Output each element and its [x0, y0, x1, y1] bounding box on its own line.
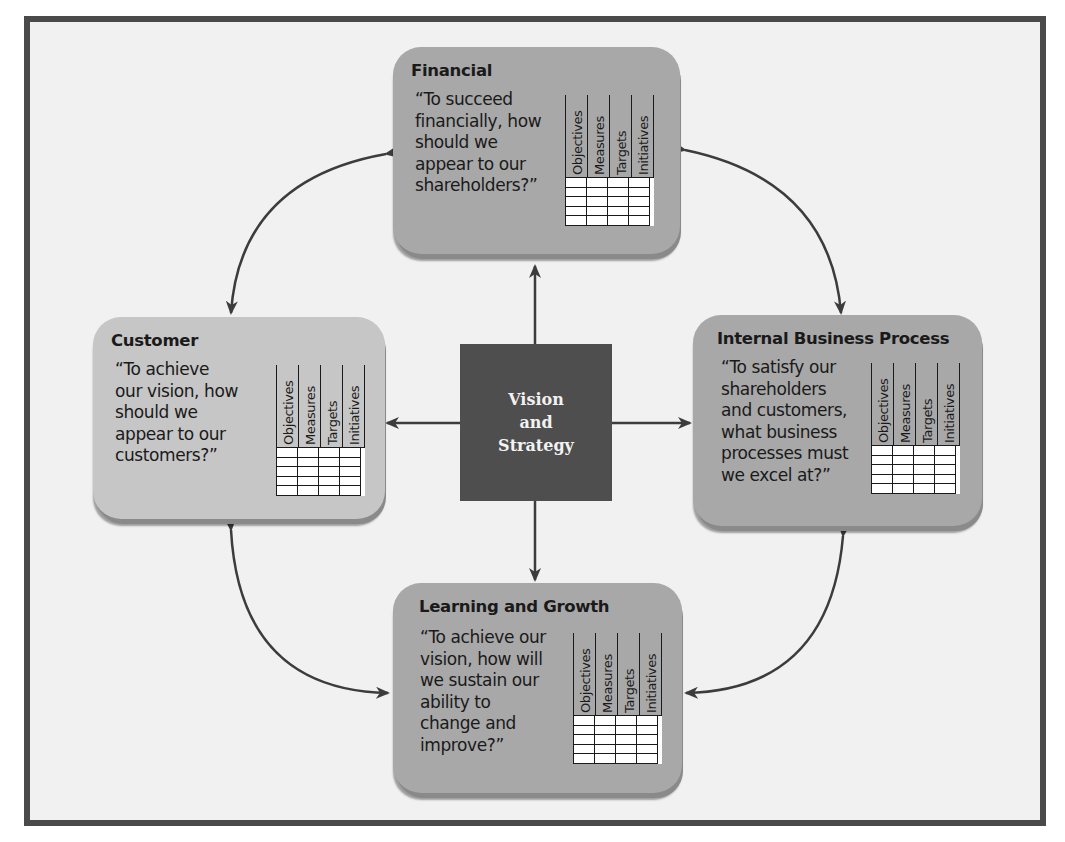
- perspective-customer: Customer “To achieve our vision, how sho…: [93, 317, 385, 519]
- column-header-initiatives: Initiatives: [639, 633, 662, 715]
- perspective-title: Learning and Growth: [419, 597, 664, 616]
- perspective-question: “To satisfy our shareholders and custome…: [721, 357, 848, 486]
- column-header-targets: Targets: [617, 633, 639, 715]
- column-header-targets: Targets: [320, 365, 342, 447]
- scorecard-grid: [276, 447, 365, 496]
- vision-and-strategy-label: Vision and Strategy: [498, 388, 574, 457]
- column-header-measures: Measures: [298, 365, 320, 447]
- scorecard-table: Objectives Measures Targets Initiatives: [276, 365, 365, 496]
- column-header-measures: Measures: [595, 633, 617, 715]
- perspective-learning-and-growth: Learning and Growth “To achieve our visi…: [393, 583, 682, 793]
- column-header-measures: Measures: [893, 363, 915, 445]
- column-header-objectives: Objectives: [871, 363, 893, 445]
- perspective-title: Customer: [111, 331, 367, 350]
- column-header-objectives: Objectives: [565, 95, 587, 177]
- perspective-question: “To achieve our vision, how should we ap…: [115, 359, 238, 467]
- perspective-financial: Financial “To succeed financially, how s…: [393, 47, 680, 254]
- scorecard-grid: [871, 445, 960, 494]
- column-header-initiatives: Initiatives: [631, 95, 654, 177]
- scorecard-table: Objectives Measures Targets Initiatives: [565, 95, 654, 226]
- column-header-targets: Targets: [915, 363, 937, 445]
- scorecard-table: Objectives Measures Targets Initiatives: [871, 363, 960, 494]
- column-header-initiatives: Initiatives: [937, 363, 960, 445]
- column-header-targets: Targets: [609, 95, 631, 177]
- perspective-title: Financial: [411, 61, 662, 80]
- perspective-question: “To succeed financially, how should we a…: [415, 89, 541, 197]
- perspective-title: Internal Business Process: [717, 329, 964, 348]
- vision-and-strategy-box: Vision and Strategy: [460, 344, 612, 501]
- column-header-objectives: Objectives: [573, 633, 595, 715]
- column-header-objectives: Objectives: [276, 365, 298, 447]
- perspective-question: “To achieve our vision, how will we sust…: [420, 627, 546, 756]
- scorecard-table: Objectives Measures Targets Initiatives: [573, 633, 662, 764]
- column-header-initiatives: Initiatives: [342, 365, 365, 447]
- scorecard-grid: [565, 177, 654, 226]
- column-header-measures: Measures: [587, 95, 609, 177]
- scorecard-grid: [573, 715, 662, 764]
- perspective-internal-business-process: Internal Business Process “To satisfy ou…: [693, 315, 982, 526]
